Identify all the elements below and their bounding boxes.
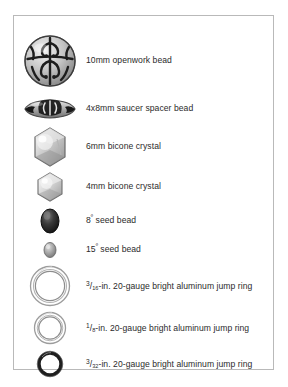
bicone-crystal-4mm-icon (14, 170, 86, 204)
bicone-crystal-6mm-icon (14, 125, 86, 169)
materials-legend-list: 10mm openwork bead (14, 16, 273, 369)
list-item[interactable]: 4mm bicone crystal (14, 168, 273, 206)
fraction-3-16: 3/16 (86, 280, 99, 292)
fraction-1-8: 1/8 (86, 322, 95, 334)
jump-ring-3-16-icon (14, 264, 86, 308)
list-item-label: 8º seed bead (86, 216, 136, 226)
list-item[interactable]: 3/16-in. 20-gauge bright aluminum jump r… (14, 264, 273, 308)
list-item[interactable]: 6mm bicone crystal (14, 124, 273, 169)
list-item-label: 1/8-in. 20-gauge bright aluminum jump ri… (86, 322, 249, 334)
list-item-label: 15º seed bead (86, 245, 141, 255)
list-item-label: 6mm bicone crystal (86, 142, 161, 152)
jump-ring-3-32-icon (14, 349, 86, 379)
list-item[interactable]: 15º seed bead (14, 236, 273, 264)
list-item[interactable]: 10mm openwork bead (14, 32, 273, 90)
list-item-label: 3/32-in. 20-gauge bright aluminum jump r… (86, 358, 252, 370)
seed-bead-8-icon (14, 207, 86, 235)
fraction-3-32: 3/32 (86, 358, 99, 370)
jump-ring-1-8-icon (14, 310, 86, 346)
openwork-round-bead-icon (14, 33, 86, 89)
list-item[interactable]: 3/32-in. 20-gauge bright aluminum jump r… (14, 345, 273, 383)
materials-legend-panel: 10mm openwork bead (13, 15, 274, 370)
saucer-spacer-bead-icon (14, 95, 86, 123)
list-item[interactable]: 8º seed bead (14, 206, 273, 236)
list-item-label: 10mm openwork bead (86, 56, 172, 66)
list-item-label: 4x8mm saucer spacer bead (86, 104, 193, 114)
list-item-label: 4mm bicone crystal (86, 182, 161, 192)
list-item[interactable]: 4x8mm saucer spacer bead (14, 94, 273, 124)
list-item[interactable]: 1/8-in. 20-gauge bright aluminum jump ri… (14, 308, 273, 348)
list-item-label: 3/16-in. 20-gauge bright aluminum jump r… (86, 280, 252, 292)
seed-bead-15-icon (14, 240, 86, 260)
